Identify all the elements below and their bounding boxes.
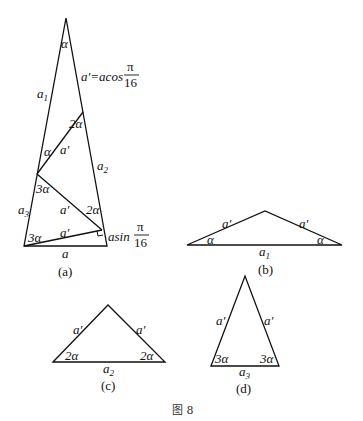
b-base-label: a1 <box>259 244 270 261</box>
panel-c-caption: (c) <box>101 378 115 393</box>
b-right-side-label: a′ <box>299 216 309 231</box>
c-right-angle-label: 2α <box>140 348 155 363</box>
figure-caption: 图 8 <box>172 404 194 417</box>
panel-d: a′ a′ 3α 3α a3 (d) <box>211 276 279 396</box>
angle-2a-mid-label: 2α <box>86 202 101 217</box>
b-right-angle-label: α <box>317 232 325 247</box>
cos-formula-prefix: a′=acos <box>81 69 123 84</box>
b-left-side-label: a′ <box>222 216 232 231</box>
c-left-angle-label: 2α <box>65 348 80 363</box>
d-left-side-label: a′ <box>216 313 226 328</box>
side-a2-label: a2 <box>97 158 109 175</box>
panel-b-caption: (b) <box>258 262 273 277</box>
c-left-side-label: a′ <box>73 322 83 337</box>
d-left-angle-label: 3α <box>214 351 230 366</box>
angle-3a-mid-label: 3α <box>35 181 51 196</box>
angle-a-left-label: α <box>44 144 52 159</box>
angle-2a-top-label: 2α <box>69 116 84 131</box>
panel-c: a′ a′ 2α 2α a2 (c) <box>53 305 165 393</box>
cos-formula-numerator: π <box>127 59 134 74</box>
d-right-side-label: a′ <box>264 313 274 328</box>
d-right-angle-label: 3α <box>259 351 275 366</box>
cos-formula-denominator: 16 <box>124 75 138 90</box>
side-a3-label: a3 <box>18 202 30 219</box>
sin-formula-numerator: π <box>137 219 144 234</box>
c-right-side-label: a′ <box>136 322 146 337</box>
panel-a: α a1 a′=acos π 16 2α α a′ a2 3α a3 a′ 2α… <box>18 18 149 279</box>
angle-3a-bottom-label: 3α <box>27 230 43 245</box>
c-base-label: a2 <box>103 361 115 378</box>
panel-b: a′ a′ α α a1 (b) <box>187 211 342 277</box>
segment-a-prime-3-label: a′ <box>60 225 70 240</box>
panel-d-caption: (d) <box>236 381 251 396</box>
apex-angle-label: α <box>61 36 69 51</box>
panel-a-caption: (a) <box>58 264 72 279</box>
segment-a-prime-1-label: a′ <box>60 142 70 157</box>
segment-a-prime-2-label: a′ <box>60 202 70 217</box>
base-a-label: a <box>62 246 69 261</box>
sin-formula-denominator: 16 <box>134 235 148 250</box>
side-a1-label: a1 <box>37 86 48 103</box>
right-angle-mark <box>97 231 103 236</box>
figure-canvas: α a1 a′=acos π 16 2α α a′ a2 3α a3 a′ 2α… <box>0 0 363 421</box>
b-left-angle-label: α <box>207 232 215 247</box>
sin-formula-prefix: asin <box>108 229 130 244</box>
